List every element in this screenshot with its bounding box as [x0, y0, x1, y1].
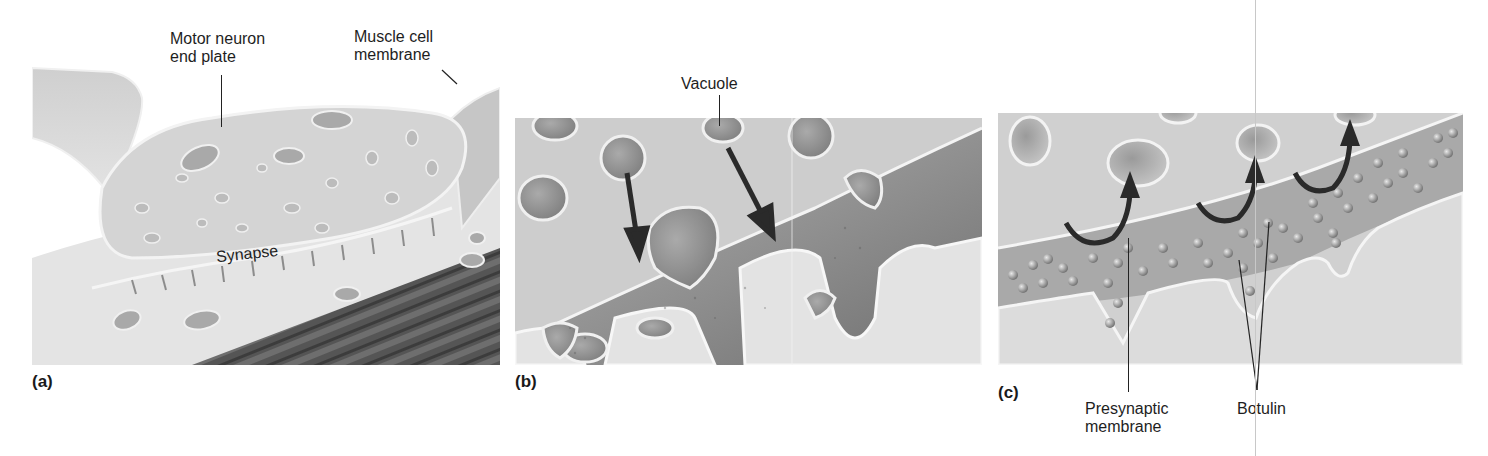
callout-text-line1: Motor neuron — [170, 30, 265, 48]
leader-line-muscle-membrane — [440, 68, 460, 88]
panel-label-b: (b) — [515, 372, 537, 392]
panel-label-c: (c) — [998, 383, 1019, 403]
panel-label-a: (a) — [32, 372, 53, 392]
callout-text-line2: end plate — [170, 48, 265, 66]
vesicle-fusion-drawing — [515, 118, 982, 365]
callout-vacuole: Vacuole — [681, 75, 738, 93]
panel-b-illustration — [515, 118, 982, 365]
callout-motor-neuron-end-plate: Motor neuron end plate — [170, 30, 265, 66]
leader-line-vacuole — [719, 95, 720, 126]
panel-a-illustration — [32, 58, 500, 365]
callout-muscle-cell-membrane: Muscle cell membrane — [354, 28, 433, 64]
panel-c-illustration — [998, 113, 1463, 365]
neuromuscular-junction-drawing — [32, 58, 500, 365]
callout-text-line2: membrane — [1085, 418, 1169, 436]
callout-botulin: Botulin — [1237, 400, 1286, 418]
callout-text-line2: membrane — [354, 46, 433, 64]
page-fold-line — [1255, 0, 1256, 456]
leader-line-end-plate — [221, 75, 222, 127]
leader-line-presynaptic — [1128, 238, 1129, 392]
botulin-blocking-drawing — [998, 113, 1463, 365]
callout-presynaptic-membrane: Presynaptic membrane — [1085, 400, 1169, 436]
callout-text-line1: Muscle cell — [354, 28, 433, 46]
callout-text-line1: Presynaptic — [1085, 400, 1169, 418]
